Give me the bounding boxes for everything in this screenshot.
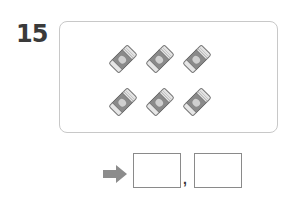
right-arrow-icon — [103, 165, 127, 183]
eraser-icon — [106, 85, 140, 119]
eraser-icon — [180, 42, 214, 76]
answer-box-2[interactable] — [194, 153, 242, 188]
answer-box-1[interactable] — [133, 153, 181, 188]
eraser-icon — [143, 42, 177, 76]
eraser-icon — [143, 85, 177, 119]
comma-separator: , — [183, 171, 187, 187]
eraser-icon — [106, 42, 140, 76]
eraser-icon — [180, 85, 214, 119]
question-number: 15 — [16, 20, 47, 48]
